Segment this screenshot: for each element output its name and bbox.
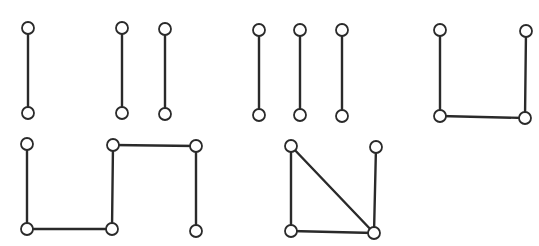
vertex-node: [190, 140, 202, 152]
vertex-node: [336, 110, 348, 122]
vertex-node: [336, 24, 348, 36]
vertex-node: [21, 223, 33, 235]
graph-diagram: [0, 0, 539, 246]
vertex-node: [370, 141, 382, 153]
vertex-node: [190, 225, 202, 237]
vertex-node: [106, 223, 118, 235]
vertex-node: [285, 225, 297, 237]
vertex-node: [294, 109, 306, 121]
vertex-node: [116, 22, 128, 34]
graph-g2: [116, 22, 171, 120]
vertex-node: [253, 109, 265, 121]
vertex-node: [22, 22, 34, 34]
vertex-node: [285, 140, 297, 152]
edge: [112, 145, 113, 229]
graph-g4: [434, 24, 532, 124]
edge: [440, 116, 525, 118]
graph-g1: [22, 22, 34, 119]
graph-g3: [253, 24, 348, 122]
vertex-node: [520, 25, 532, 37]
graph-g6: [285, 140, 382, 239]
edge: [291, 146, 374, 233]
vertex-node: [116, 107, 128, 119]
graph-g5: [21, 138, 202, 237]
edge: [113, 145, 196, 146]
vertex-node: [294, 24, 306, 36]
vertex-node: [21, 138, 33, 150]
edge: [525, 31, 526, 118]
vertex-node: [434, 24, 446, 36]
vertex-node: [159, 23, 171, 35]
vertex-node: [22, 107, 34, 119]
vertex-node: [159, 108, 171, 120]
vertex-node: [434, 110, 446, 122]
edge: [291, 231, 374, 233]
vertex-node: [519, 112, 531, 124]
vertex-node: [368, 227, 380, 239]
edge: [374, 147, 376, 233]
vertex-node: [253, 24, 265, 36]
vertex-node: [107, 139, 119, 151]
